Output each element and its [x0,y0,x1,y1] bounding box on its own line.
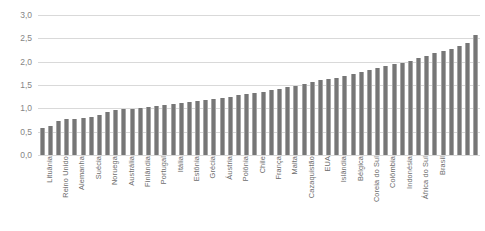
bar [392,64,397,155]
bar [261,92,266,155]
bar [432,53,437,155]
bar [228,97,233,155]
x-axis-tick-label: Coreia do Sul [372,156,381,202]
x-axis-tick-label: Polônia [241,156,250,181]
bar [383,66,388,155]
x-axis-tick-label: Alemanha [77,156,86,190]
bar [236,95,241,155]
y-axis-tick-label: 0,5 [0,127,32,137]
x-axis-tick-label: Estônia [192,156,201,181]
x-axis-tick-label: Lituânia [45,156,54,183]
y-axis-tick-label: 3,0 [0,10,32,20]
bar [48,126,53,155]
x-axis-tick-label: Colômbia [388,156,397,188]
plot-area [38,15,480,155]
bar [285,87,290,155]
bar [400,63,405,155]
x-axis-tick-label: Áustria [225,156,234,180]
x-axis-tick-label: Brasil [438,156,447,175]
bar [441,51,446,155]
x-axis-tick-label: Reino Unido [61,156,70,198]
x-axis-tick-label: Grécia [208,156,217,178]
bar [195,101,200,155]
x-axis-tick-label: Itália [176,156,185,172]
x-axis-tick-label: Malta [290,156,299,175]
bar [130,109,135,155]
bar [342,76,347,155]
bar [154,106,159,155]
bar [473,35,478,155]
bar [211,99,216,155]
bar [187,102,192,155]
x-axis-tick-label: EUA [323,156,332,172]
x-axis-tick-label: África do Sul [421,156,430,199]
bar [310,82,315,155]
y-axis-tick-label: 1,0 [0,103,32,113]
bar [72,119,77,155]
bar [408,61,413,155]
x-axis-tick-label: Chile [258,156,267,173]
bar [293,86,298,155]
bar [220,98,225,155]
x-axis-tick-label: Finlândia [143,156,152,187]
bar [146,107,151,155]
bar [269,90,274,155]
x-axis-tick-label: Islândia [339,156,348,182]
bar [56,121,61,155]
bar [449,49,454,155]
x-axis-tick-label: França [274,156,283,180]
bar [277,89,282,155]
bar [326,79,331,155]
bar [162,105,167,155]
bar [318,80,323,155]
bar [138,108,143,155]
bar [203,100,208,155]
x-axis-tick-label: Cazaquistão [307,156,316,198]
y-axis-tick-label: 2,5 [0,33,32,43]
x-axis-tick-label: Suécia [94,156,103,179]
bar [252,93,257,155]
bar [351,74,356,155]
bar [64,119,69,155]
bar [105,112,110,155]
bar [302,84,307,155]
x-axis-tick-label: Indonésia [405,156,414,189]
x-axis-labels: LituâniaReino UnidoAlemanhaSuéciaNoruega… [38,156,480,231]
bar [89,117,94,155]
x-axis-tick-label: Austrália [127,156,136,186]
bar-chart: 0,00,51,01,52,02,53,0 LituâniaReino Unid… [0,0,485,231]
x-axis-tick-label: Portugal [159,156,168,184]
bar [424,56,429,155]
y-axis-tick-label: 0,0 [0,150,32,160]
bar-series [38,15,480,155]
bar [416,58,421,155]
bar [334,78,339,155]
x-axis-tick-label: Noruega [110,156,119,185]
bar [121,109,126,155]
bar [375,68,380,155]
bar [81,118,86,155]
bar [465,43,470,155]
bar [97,115,102,155]
y-axis-tick-label: 2,0 [0,57,32,67]
bar [171,104,176,155]
bar [40,128,45,155]
y-axis-tick-label: 1,5 [0,80,32,90]
bar [367,70,372,155]
bar [457,46,462,155]
bar [113,110,118,155]
bar [179,103,184,155]
bar [244,94,249,155]
bar [359,72,364,155]
x-axis-tick-label: Bélgica [356,156,365,181]
